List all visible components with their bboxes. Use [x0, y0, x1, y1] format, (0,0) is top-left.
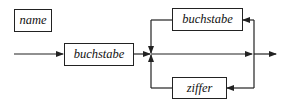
node-first-label: buchstabe	[74, 47, 125, 62]
node-loop-top-label: buchstabe	[182, 12, 233, 27]
node-first-buchstabe: buchstabe	[64, 43, 134, 66]
node-loop-top-buchstabe: buchstabe	[172, 8, 243, 31]
node-loop-bottom-label: ziffer	[187, 81, 213, 96]
syntax-diagram: name buchstabe buchstabe ziffer	[0, 0, 292, 104]
node-loop-bottom-ziffer: ziffer	[172, 77, 227, 99]
rule-name-box: name	[14, 9, 52, 32]
rule-name-label: name	[19, 13, 46, 28]
